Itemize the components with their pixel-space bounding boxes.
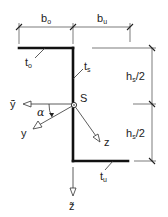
- dim-label-b-u: bu: [97, 12, 107, 25]
- arrowhead-icon: [33, 121, 42, 129]
- thickness-label-t-o: to: [25, 56, 32, 69]
- axis-y-tilde: [23, 101, 74, 107]
- axis-z: [74, 105, 100, 142]
- leader-t-s: [73, 69, 83, 79]
- leader-t-u: [105, 161, 113, 170]
- axis-label-z-tilde: z̃: [69, 200, 75, 212]
- thickness-label-t-u: tu: [100, 170, 107, 183]
- axis-label-y-tilde: ỹ: [10, 98, 16, 110]
- arrowhead-icon: [23, 101, 31, 107]
- angle-label-alpha: α: [37, 106, 45, 119]
- dim-label-h-lower: hs/2: [126, 127, 145, 140]
- leader-t-o: [35, 48, 45, 58]
- centroid-label: S: [80, 92, 87, 104]
- arrowhead-icon: [70, 188, 76, 196]
- dim-label-h-upper: hs/2: [126, 70, 145, 83]
- axis-z-tilde: [70, 167, 76, 196]
- dim-label-b-o: bo: [41, 12, 51, 25]
- arrowhead-icon: [93, 134, 100, 142]
- axis-label-y: y: [21, 127, 27, 139]
- thickness-label-t-s: ts: [84, 60, 91, 73]
- axis-label-z: z: [104, 136, 110, 148]
- dimension-h: [92, 45, 156, 164]
- z-section-diagram: bo bu hs/2 hs/2 to ts tu ỹ: [0, 0, 168, 217]
- dimension-b: [16, 23, 133, 44]
